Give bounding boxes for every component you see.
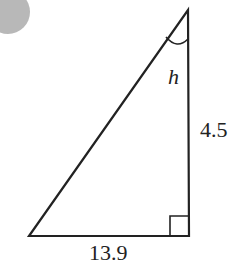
corner-badge [0,0,30,34]
horizontal-side-label: 13.9 [89,240,128,265]
vertical-side-label: 4.5 [200,117,228,142]
right-angle-marker [170,216,189,236]
right-triangle [29,10,189,236]
triangle-diagram: h 4.5 13.9 [0,0,243,265]
angle-label: h [168,64,179,89]
